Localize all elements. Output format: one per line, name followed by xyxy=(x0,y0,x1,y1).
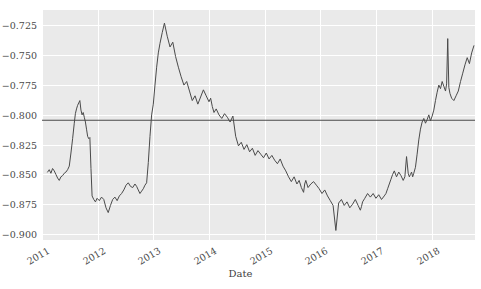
x-axis-ticks: 20112012201320142015201620172018 xyxy=(0,0,481,289)
x-axis-label: Date xyxy=(0,268,481,279)
chart-figure: −0.725−0.750−0.775−0.800−0.825−0.850−0.8… xyxy=(0,0,481,289)
